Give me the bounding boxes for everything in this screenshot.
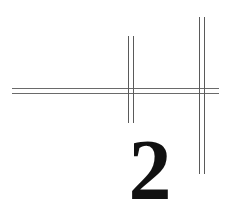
vertical-rule-left-b	[133, 36, 134, 123]
vertical-rule-right-b	[204, 17, 205, 174]
vertical-rule-left-a	[128, 36, 129, 123]
vertical-rule-right-a	[199, 17, 200, 174]
chapter-number: 2	[124, 130, 176, 210]
chapter-opener-page: 2	[0, 0, 228, 215]
horizontal-rule-bottom	[12, 93, 219, 94]
horizontal-rule-top	[12, 88, 219, 89]
